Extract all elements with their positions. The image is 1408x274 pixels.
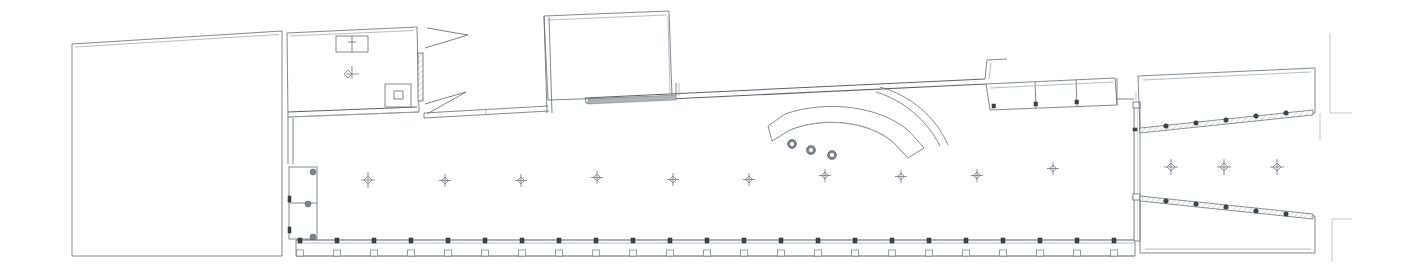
right-connector-wall bbox=[1133, 102, 1140, 241]
stair-marker bbox=[828, 151, 837, 160]
stair-marker bbox=[807, 146, 816, 155]
stair-marker bbox=[788, 140, 797, 149]
drawing-background bbox=[0, 0, 1408, 274]
fixture-lower bbox=[385, 84, 411, 107]
floor-plan-drawing bbox=[0, 0, 1408, 274]
fixture-top bbox=[336, 36, 368, 52]
floor-plan-canvas bbox=[0, 0, 1408, 274]
